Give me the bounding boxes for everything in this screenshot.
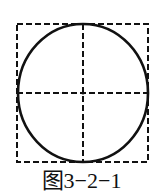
center-point	[81, 91, 84, 94]
figure-caption: 图3−2−1	[0, 168, 163, 194]
diagram-canvas	[0, 0, 163, 195]
